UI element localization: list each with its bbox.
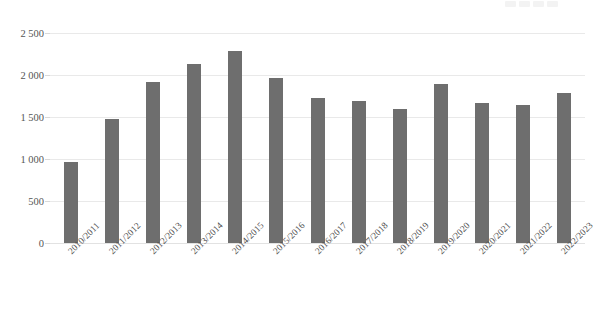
bar [393, 109, 407, 243]
bar [311, 98, 325, 243]
toolbar-glyph [505, 1, 516, 7]
bar-chart: 05001 0001 5002 0002 500 2010/20112011/2… [0, 0, 595, 310]
bar [475, 103, 489, 243]
y-axis-tick-label: 1 500 [2, 112, 44, 123]
bar [516, 105, 530, 243]
bar-series [50, 33, 585, 243]
bar [434, 84, 448, 243]
bar [352, 101, 366, 243]
plot-area: 05001 0001 5002 0002 500 [50, 33, 585, 243]
toolbar-glyph [533, 1, 544, 7]
toolbar-glyph [547, 1, 558, 7]
y-axis-tick-label: 500 [2, 196, 44, 207]
bar [105, 119, 119, 243]
bar [187, 64, 201, 243]
bar [64, 162, 78, 243]
toolbar-glyph [519, 1, 530, 7]
bar [269, 78, 283, 243]
cutoff-toolbar-strip [505, 0, 589, 7]
y-axis-tick-label: 0 [2, 238, 44, 249]
y-axis-tick-mark [45, 243, 50, 244]
y-axis-tick-label: 2 000 [2, 70, 44, 81]
bar [228, 51, 242, 243]
bar [146, 82, 160, 243]
bar [557, 93, 571, 243]
y-axis-tick-label: 2 500 [2, 28, 44, 39]
y-axis-tick-label: 1 000 [2, 154, 44, 165]
